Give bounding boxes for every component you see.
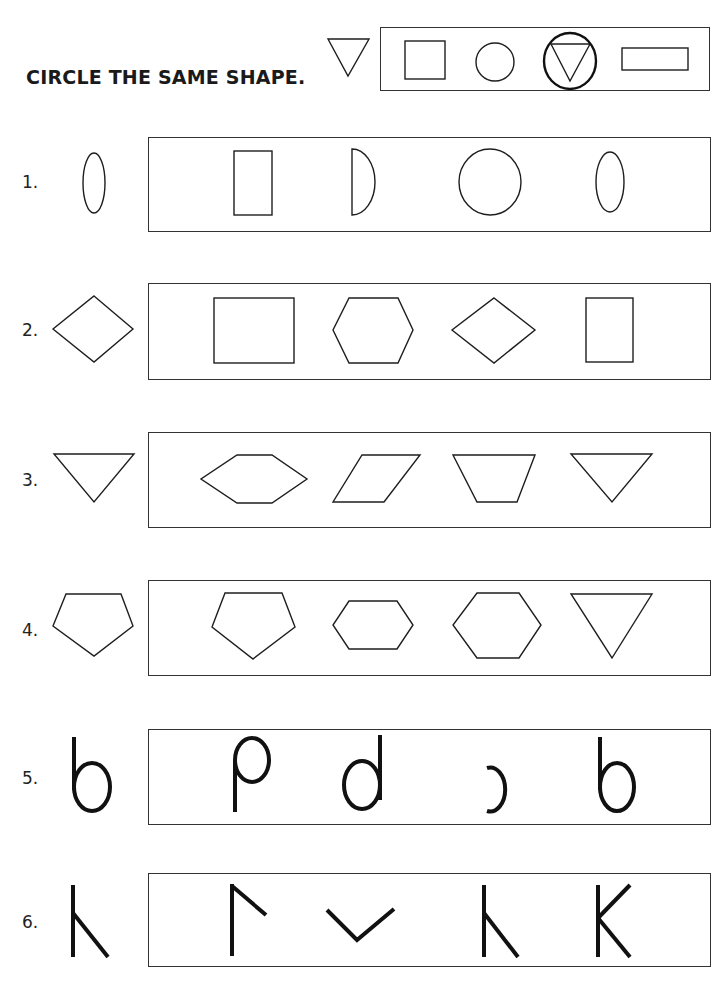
q1-option-oval-icon[interactable] [596, 152, 624, 212]
q3-option-flat-hexagon-icon[interactable] [201, 455, 307, 503]
example-target-triangle-icon [328, 39, 369, 76]
q5-option-p-shape-icon[interactable] [235, 738, 269, 812]
q2-option-square-icon[interactable] [214, 298, 294, 363]
q6-option-lambda-k-icon[interactable] [484, 885, 518, 957]
q2-target-diamond-icon [53, 296, 133, 362]
q5-target-b-icon [74, 737, 110, 811]
q2-option-diamond-icon[interactable] [452, 298, 535, 363]
q3-option-trapezoid-icon[interactable] [453, 455, 535, 502]
q6-target-lambda-k-icon [73, 885, 108, 957]
q2-option-rectangle-icon[interactable] [586, 298, 633, 362]
q3-option-triangle-icon[interactable] [571, 454, 652, 502]
example-option-square-icon[interactable] [405, 41, 445, 79]
q1-option-rectangle-icon[interactable] [234, 151, 272, 215]
q5-option-reversed-c-icon[interactable] [487, 768, 505, 812]
q6-option-flag-shape-icon[interactable] [232, 884, 266, 956]
q3-target-triangle-icon [54, 454, 134, 502]
q1-option-half-circle-icon[interactable] [352, 149, 375, 215]
q4-option-small-hexagon-icon[interactable] [333, 601, 413, 649]
example-option-rectangle-icon[interactable] [622, 48, 688, 70]
q2-option-hexagon-icon[interactable] [333, 298, 413, 363]
q5-option-b-icon[interactable] [600, 737, 634, 811]
q6-option-v-shape-icon[interactable] [327, 909, 394, 940]
q5-option-d-icon[interactable] [344, 735, 380, 809]
q4-option-pentagon-icon[interactable] [212, 593, 295, 659]
q3-option-parallelogram-icon[interactable] [333, 455, 420, 502]
q4-option-hexagon-icon[interactable] [453, 593, 541, 658]
q4-option-triangle-icon[interactable] [571, 594, 652, 658]
q1-option-circle-icon[interactable] [459, 149, 521, 215]
q1-target-oval-icon [83, 153, 105, 213]
shapes-layer [0, 0, 728, 989]
example-option-triangle-icon[interactable] [551, 44, 590, 81]
example-option-circle-icon[interactable] [476, 43, 514, 81]
q6-option-K-icon[interactable] [598, 885, 630, 957]
q4-target-pentagon-icon [53, 594, 133, 656]
